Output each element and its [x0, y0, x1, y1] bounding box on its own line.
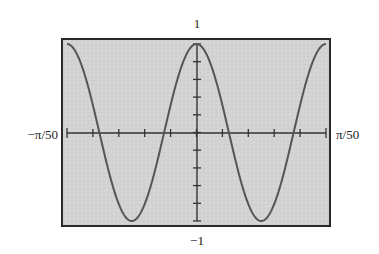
- x-min-label: −π/50: [27, 127, 58, 142]
- chart: 1 −1 −π/50 π/50: [0, 0, 379, 254]
- y-max-label: 1: [194, 16, 201, 31]
- y-min-label: −1: [190, 233, 204, 248]
- x-max-label: π/50: [336, 127, 359, 142]
